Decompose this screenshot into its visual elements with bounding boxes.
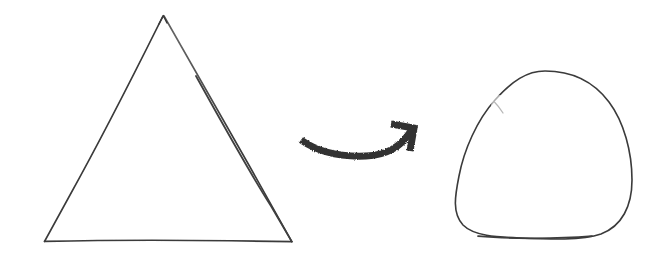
arrow-region <box>295 118 421 162</box>
sketch-canvas: triangle transforms into rounded triangl… <box>0 0 665 261</box>
source-shape-region <box>40 11 298 247</box>
target-shape-region <box>450 66 638 244</box>
